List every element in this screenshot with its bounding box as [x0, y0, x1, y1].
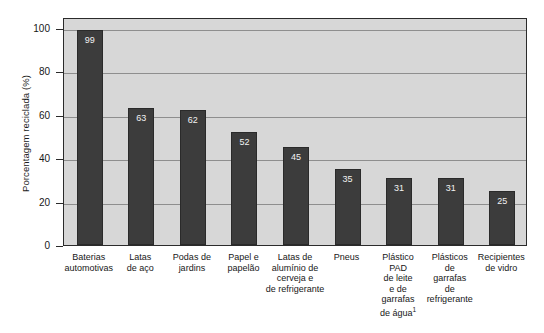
gridline: [64, 30, 526, 31]
y-axis-tick-label: 0: [0, 240, 50, 251]
y-axis-tick: [56, 116, 63, 117]
bar: 45: [283, 147, 309, 245]
x-axis-label-line: de água1: [368, 305, 428, 319]
bar: 52: [231, 132, 257, 245]
bar: 63: [128, 108, 154, 245]
y-axis-tick: [56, 203, 63, 204]
recycling-bar-chart: Porcentagem reciclada (%) 020406080100 9…: [0, 0, 544, 333]
y-axis-tick: [56, 72, 63, 73]
bar-value-label: 35: [336, 174, 360, 184]
bar-value-label: 31: [387, 183, 411, 193]
x-axis-label-line: alumínio de: [265, 263, 325, 274]
bar-value-label: 52: [232, 137, 256, 147]
bar-value-label: 63: [129, 113, 153, 123]
bar-value-label: 25: [490, 196, 514, 206]
x-axis-category-label: Recipientesde vidro: [471, 252, 531, 273]
x-axis-label-line: refrigerante: [420, 294, 480, 305]
footnote-marker: 1: [413, 306, 417, 313]
bar-value-label: 62: [181, 115, 205, 125]
bar: 99: [77, 30, 103, 245]
bar: 31: [386, 178, 412, 245]
y-axis-tick-label: 20: [0, 197, 50, 208]
bar-value-label: 45: [284, 152, 308, 162]
y-axis-tick-label: 60: [0, 110, 50, 121]
y-axis-tick-label: 80: [0, 66, 50, 77]
x-axis-label-line: Recipientes: [471, 252, 531, 263]
x-axis-label-line: garrafas: [420, 273, 480, 284]
bar-value-label: 99: [78, 35, 102, 45]
x-axis-label-line: de: [420, 284, 480, 295]
x-axis-label-line: de refrigerante: [265, 284, 325, 295]
gridline: [64, 73, 526, 74]
bar: 62: [180, 110, 206, 245]
bar: 35: [335, 169, 361, 245]
plot-area: 996362524535313125: [63, 18, 527, 246]
bar-value-label: 31: [439, 183, 463, 193]
y-axis-tick: [56, 29, 63, 30]
y-axis-tick-label: 40: [0, 153, 50, 164]
y-axis-tick-label: 100: [0, 23, 50, 34]
y-axis-title: Porcentagem reciclada (%): [20, 14, 31, 254]
y-axis-tick: [56, 159, 63, 160]
x-axis-label-line: cerveja e: [265, 273, 325, 284]
bar: 31: [438, 178, 464, 245]
bar: 25: [489, 191, 515, 245]
x-axis-label-line: de vidro: [471, 263, 531, 274]
y-axis-tick: [56, 246, 63, 247]
